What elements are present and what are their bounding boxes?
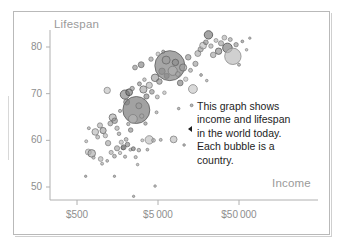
bubble-country	[152, 138, 156, 142]
bubble-country	[241, 40, 244, 43]
bubble-country	[98, 157, 103, 162]
bubble-country	[203, 40, 208, 45]
bubble-country	[118, 109, 121, 112]
bubble-country	[87, 127, 90, 130]
bubble-country	[143, 78, 147, 82]
x-tick-label: $5 000	[123, 209, 193, 220]
bubble-country	[190, 104, 193, 107]
bubble-country	[117, 132, 121, 136]
bubble-country	[189, 68, 193, 72]
bubble-country	[177, 80, 183, 86]
bubble-country	[92, 129, 99, 136]
bubble-country	[146, 148, 149, 151]
bubble-country	[189, 85, 198, 94]
bubble-country	[214, 38, 218, 42]
bubble-country	[140, 114, 144, 118]
bubble-country	[144, 122, 147, 125]
y-tick-label: 80	[20, 41, 42, 52]
bubble-country	[113, 154, 117, 158]
bubble-country	[144, 94, 149, 99]
bubble-country	[179, 64, 186, 71]
bubble-country	[132, 195, 134, 197]
bubble-country	[133, 65, 138, 70]
bubble-country	[183, 144, 186, 147]
bubble-country	[193, 61, 198, 66]
annotation-line: Each bubble is a	[197, 140, 329, 153]
bubble-country	[104, 87, 110, 93]
bubble-country	[124, 138, 128, 142]
bubble-country	[140, 86, 147, 93]
bubble-country	[205, 79, 208, 82]
bubble-country	[200, 74, 203, 77]
y-axis-ticks	[46, 47, 50, 187]
bubble-country	[121, 145, 126, 150]
bubble-country	[155, 95, 159, 99]
bubble-country	[177, 107, 180, 110]
annotation-line: in the world today.	[197, 127, 329, 140]
x-tick-label: $50 000	[204, 209, 274, 220]
bubble-country	[172, 59, 178, 65]
bubble-country	[155, 111, 158, 114]
bubble-country	[84, 175, 86, 177]
annotation-pointer-icon	[188, 126, 192, 132]
bubble-country	[162, 50, 165, 53]
bubble-country	[109, 150, 113, 154]
bubble-country	[112, 118, 118, 124]
bubble-country	[106, 159, 109, 162]
x-axis-title: Income	[272, 177, 311, 189]
y-tick-label: 60	[20, 134, 42, 145]
bubble-country	[149, 89, 154, 94]
bubble-country	[159, 138, 162, 141]
annotation-text: This graph showsincome and lifespanin th…	[197, 100, 329, 167]
bubble-country	[210, 52, 216, 58]
bubble-country	[96, 135, 100, 139]
bubble-country	[138, 62, 144, 68]
bubble-country	[118, 151, 121, 154]
annotation-line: income and lifespan	[197, 113, 329, 126]
bubble-country	[238, 63, 241, 66]
annotation-line: country.	[197, 154, 329, 167]
y-axis-title: Lifespan	[54, 18, 99, 30]
x-tick-label: $500	[42, 209, 112, 220]
bubble-country	[127, 122, 130, 125]
bubble-country	[136, 163, 139, 166]
bubble-country	[131, 147, 135, 151]
bubble-country	[137, 148, 141, 152]
bubble-country	[141, 139, 144, 142]
bubble-country	[245, 49, 248, 52]
bubble-country	[157, 79, 163, 85]
bubble-country	[130, 86, 134, 90]
bubble-country	[136, 103, 142, 109]
bubble-country	[156, 52, 160, 56]
bubble-country	[204, 31, 212, 39]
bubble-country	[100, 127, 106, 133]
bubble-country	[149, 57, 153, 61]
bubble-country	[101, 162, 104, 165]
bubble-country	[218, 41, 223, 46]
bubble-country	[137, 82, 141, 86]
bubble-country	[129, 114, 138, 123]
bubble-country	[85, 140, 88, 143]
bubble-country	[228, 38, 232, 42]
x-axis-ticks	[77, 200, 239, 205]
bubble-country	[134, 156, 137, 159]
bubble-country	[128, 128, 133, 133]
bubble-country	[105, 140, 110, 145]
bubble-country	[103, 133, 107, 137]
bubble-country	[225, 48, 241, 64]
bubble-country	[123, 155, 126, 158]
bubble-country	[209, 44, 213, 48]
bubble-country	[222, 35, 227, 40]
bubble-country	[184, 77, 188, 81]
bubble-country	[119, 140, 123, 144]
bubble-country	[113, 175, 115, 177]
bubble-country	[97, 123, 102, 128]
bubble-country	[146, 82, 152, 88]
bubble-country	[115, 126, 119, 130]
bubble-country	[154, 185, 157, 188]
bubble-country	[114, 146, 119, 151]
bubble-country	[163, 91, 167, 95]
bubble-country	[92, 156, 95, 159]
y-tick-label: 50	[20, 181, 42, 192]
annotation-line: This graph shows	[197, 100, 329, 113]
